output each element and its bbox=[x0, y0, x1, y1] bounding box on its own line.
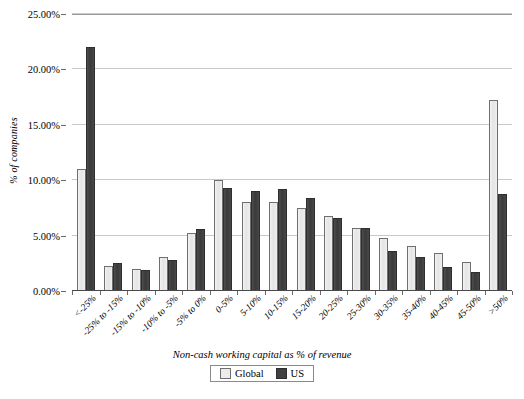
y-axis-ticks: 0.00%5.00%10.00%15.00%20.00%25.00% bbox=[0, 0, 66, 291]
x-tick-label: 35-40% bbox=[399, 293, 427, 321]
x-tick-label: 5-10% bbox=[238, 293, 263, 318]
bar-global[interactable] bbox=[104, 266, 113, 291]
legend: Global US bbox=[0, 365, 524, 382]
legend-box: Global US bbox=[210, 365, 314, 382]
y-tick-label: 20.00% bbox=[28, 64, 60, 75]
y-tick-mark bbox=[61, 291, 66, 292]
bar-global[interactable] bbox=[242, 202, 251, 291]
bar-global[interactable] bbox=[352, 228, 361, 291]
bar-us[interactable] bbox=[168, 260, 177, 291]
x-tick-mark bbox=[512, 291, 513, 295]
y-tick-mark bbox=[61, 125, 66, 126]
bar-us[interactable] bbox=[333, 218, 342, 291]
bar-global[interactable] bbox=[462, 262, 471, 291]
x-tick-label: >50% bbox=[486, 293, 510, 317]
bar-group bbox=[265, 14, 293, 291]
bar-group bbox=[72, 14, 100, 291]
bar-groups bbox=[72, 14, 512, 291]
y-tick-label: 25.00% bbox=[28, 9, 60, 20]
bar-group bbox=[375, 14, 403, 291]
x-axis-labels: <-25%-25% to -15%-15% to -10%-10% to -5%… bbox=[72, 293, 512, 345]
bar-us[interactable] bbox=[443, 267, 452, 291]
y-tick-mark bbox=[61, 180, 66, 181]
bar-us[interactable] bbox=[388, 251, 397, 291]
bar-us[interactable] bbox=[86, 47, 95, 291]
x-tick-label: 10-15% bbox=[262, 293, 290, 321]
bar-global[interactable] bbox=[187, 233, 196, 291]
x-axis-title: Non-cash working capital as % of revenue bbox=[0, 349, 524, 360]
bar-group bbox=[347, 14, 375, 291]
x-tick-label: 40-45% bbox=[427, 293, 455, 321]
bar-us[interactable] bbox=[306, 198, 315, 291]
legend-swatch-global bbox=[220, 368, 231, 379]
bar-group bbox=[155, 14, 183, 291]
legend-swatch-us bbox=[276, 368, 287, 379]
x-tick-label: 0-5% bbox=[214, 293, 236, 315]
bar-global[interactable] bbox=[324, 216, 333, 291]
bar-us[interactable] bbox=[113, 263, 122, 291]
bar-global[interactable] bbox=[297, 208, 306, 291]
bar-global[interactable] bbox=[77, 169, 86, 291]
bar-group bbox=[237, 14, 265, 291]
bar-us[interactable] bbox=[223, 188, 232, 291]
y-tick-label: 10.00% bbox=[28, 175, 60, 186]
y-tick-mark bbox=[61, 14, 66, 15]
bar-us[interactable] bbox=[251, 191, 260, 291]
bar-group bbox=[182, 14, 210, 291]
bar-group bbox=[320, 14, 348, 291]
legend-label-global: Global bbox=[235, 368, 264, 379]
bar-group bbox=[402, 14, 430, 291]
x-tick-label: 25-30% bbox=[344, 293, 372, 321]
y-tick-mark bbox=[61, 69, 66, 70]
bar-us[interactable] bbox=[361, 228, 370, 291]
x-tick-label: 15-20% bbox=[289, 293, 317, 321]
bar-group bbox=[430, 14, 458, 291]
bar-global[interactable] bbox=[489, 100, 498, 291]
legend-item-us: US bbox=[276, 368, 304, 379]
y-tick-label: 15.00% bbox=[28, 119, 60, 130]
bar-global[interactable] bbox=[434, 253, 443, 291]
bar-us[interactable] bbox=[196, 229, 205, 291]
bar-us[interactable] bbox=[471, 272, 480, 291]
bar-global[interactable] bbox=[159, 257, 168, 291]
x-tick-label: 20-25% bbox=[317, 293, 345, 321]
bar-group bbox=[127, 14, 155, 291]
bar-us[interactable] bbox=[278, 189, 287, 291]
legend-label-us: US bbox=[291, 368, 304, 379]
bar-group bbox=[485, 14, 513, 291]
bar-group bbox=[292, 14, 320, 291]
bar-global[interactable] bbox=[269, 202, 278, 291]
bar-us[interactable] bbox=[498, 194, 507, 292]
legend-item-global: Global bbox=[220, 368, 264, 379]
bar-global[interactable] bbox=[132, 269, 141, 291]
bar-us[interactable] bbox=[141, 270, 150, 291]
bar-global[interactable] bbox=[379, 238, 388, 291]
x-tick-label: 30-35% bbox=[372, 293, 400, 321]
x-tick-label: 45-50% bbox=[454, 293, 482, 321]
bar-group bbox=[457, 14, 485, 291]
plot-area bbox=[72, 14, 512, 291]
bar-global[interactable] bbox=[407, 246, 416, 291]
y-tick-label: 0.00% bbox=[33, 286, 60, 297]
bar-group bbox=[100, 14, 128, 291]
chart-root: % of companies 0.00%5.00%10.00%15.00%20.… bbox=[0, 0, 524, 399]
bar-group bbox=[210, 14, 238, 291]
bar-us[interactable] bbox=[416, 257, 425, 291]
bar-global[interactable] bbox=[214, 180, 223, 291]
y-tick-label: 5.00% bbox=[33, 230, 60, 241]
y-tick-mark bbox=[61, 236, 66, 237]
